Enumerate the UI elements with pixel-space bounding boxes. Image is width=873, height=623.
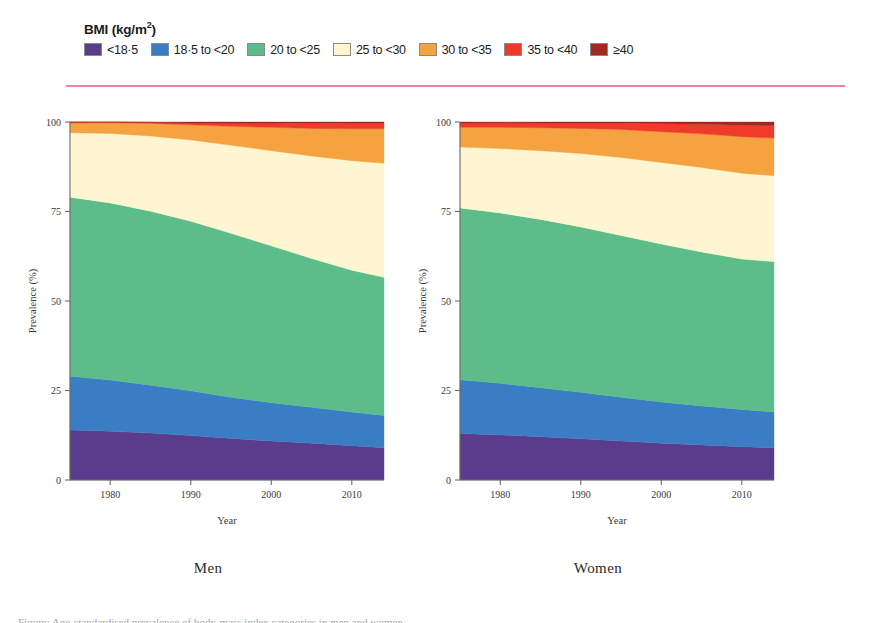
panel-caption-men: Men [18, 560, 398, 577]
y-tick-label: 25 [51, 385, 61, 396]
legend-item-label: ≥40 [613, 43, 633, 57]
x-tick-label: 2000 [651, 489, 671, 500]
y-tick-label: 50 [51, 296, 61, 307]
y-tick-label: 0 [446, 475, 451, 486]
legend-item-label: 35 to <40 [527, 43, 577, 57]
x-tick-label: 1980 [100, 489, 120, 500]
stacked-area-chart-women: 02550751001980199020002010YearPrevalence… [408, 112, 788, 552]
plot-area-women: 02550751001980199020002010YearPrevalence… [408, 112, 788, 552]
legend-item-label: 30 to <35 [442, 43, 492, 57]
legend-color-swatch [84, 43, 102, 56]
legend-item[interactable]: ≥40 [590, 43, 633, 57]
legend-title: BMI (kg/m2) [84, 20, 844, 37]
y-tick-label: 75 [51, 206, 61, 217]
y-tick-label: 100 [46, 117, 61, 128]
figure-caption-sliver: Figure: Age-standardised prevalence of b… [18, 616, 856, 623]
legend-title-close: ) [152, 22, 156, 37]
y-axis-title: Prevalence (%) [417, 268, 429, 333]
legend-color-swatch [333, 43, 351, 56]
x-axis-title: Year [607, 515, 627, 526]
y-tick-label: 50 [441, 296, 451, 307]
legend-title-main: BMI (kg/m [84, 22, 147, 37]
legend-item-label: 20 to <25 [270, 43, 320, 57]
chart-panel-women: 02550751001980199020002010YearPrevalence… [408, 112, 788, 552]
legend-item[interactable]: 20 to <25 [247, 43, 320, 57]
legend-item[interactable]: 35 to <40 [504, 43, 577, 57]
legend-item-label: 18·5 to <20 [174, 43, 234, 57]
panel-caption-women: Women [408, 560, 788, 577]
chart-legend: BMI (kg/m2) <18·518·5 to <2020 to <2525 … [84, 20, 844, 57]
legend-color-swatch [151, 43, 169, 56]
legend-item-label: 25 to <30 [356, 43, 406, 57]
y-tick-label: 25 [441, 385, 451, 396]
legend-item[interactable]: 25 to <30 [333, 43, 406, 57]
x-tick-label: 1990 [181, 489, 201, 500]
x-tick-label: 2010 [732, 489, 752, 500]
x-axis-title: Year [217, 515, 237, 526]
y-axis-title: Prevalence (%) [27, 268, 39, 333]
plot-area-men: 02550751001980199020002010YearPrevalence… [18, 112, 398, 552]
legend-divider-rule [66, 85, 845, 87]
legend-item[interactable]: 18·5 to <20 [151, 43, 234, 57]
y-tick-label: 75 [441, 206, 451, 217]
legend-color-swatch [419, 43, 437, 56]
legend-item-label: <18·5 [107, 43, 138, 57]
legend-items-row: <18·518·5 to <2020 to <2525 to <3030 to … [84, 43, 844, 57]
legend-color-swatch [504, 43, 522, 56]
x-tick-label: 2010 [342, 489, 362, 500]
legend-color-swatch [590, 43, 608, 56]
x-tick-label: 2000 [261, 489, 281, 500]
legend-color-swatch [247, 43, 265, 56]
chart-panel-men: 02550751001980199020002010YearPrevalence… [18, 112, 398, 552]
x-tick-label: 1980 [490, 489, 510, 500]
x-tick-label: 1990 [571, 489, 591, 500]
stacked-area-chart-men: 02550751001980199020002010YearPrevalence… [18, 112, 398, 552]
legend-item[interactable]: 30 to <35 [419, 43, 492, 57]
y-tick-label: 0 [56, 475, 61, 486]
y-tick-label: 100 [436, 117, 451, 128]
legend-item[interactable]: <18·5 [84, 43, 138, 57]
